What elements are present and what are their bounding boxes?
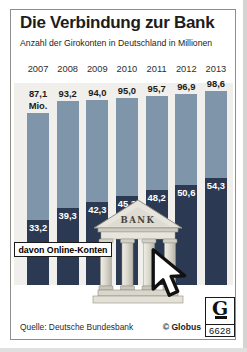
- bar-total-value-label: 98,6: [200, 78, 232, 90]
- bar-total-value-label: 94,0: [81, 87, 113, 99]
- year-label: 2008: [52, 64, 84, 74]
- bar-total-value-label: 87,1Mio.: [22, 88, 54, 112]
- year-label: 2013: [200, 64, 232, 74]
- bar-online-segment: [205, 178, 227, 285]
- infographic-canvas: Die Verbindung zur Bank Anzahl der Girok…: [0, 0, 247, 352]
- online-accounts-annotation: davon Online-Konten: [14, 242, 112, 257]
- globus-graphic-number: 6628: [205, 324, 235, 337]
- scan-edge-bottom: [0, 348, 247, 352]
- scan-edge-right: [243, 0, 247, 352]
- bar-online-value-label: 33,2: [22, 222, 54, 234]
- bar-total-value-label: 95,0: [111, 85, 143, 97]
- bank-cornice: [98, 228, 178, 232]
- unit-label: Mio.: [22, 100, 54, 112]
- copyright-label: © Globus: [163, 322, 201, 332]
- year-label: 2007: [22, 64, 54, 74]
- globus-logo-bar: [215, 316, 227, 319]
- bank-frieze: [101, 232, 175, 239]
- mouse-cursor-icon: [149, 247, 191, 303]
- year-label: 2011: [141, 64, 173, 74]
- year-label: 2009: [81, 64, 113, 74]
- year-label: 2012: [170, 64, 202, 74]
- bar-total-value-label: 93,2: [52, 88, 84, 100]
- globus-logo: G 6628: [205, 297, 235, 337]
- bar-total-value-label: 96,9: [170, 81, 202, 93]
- source-attribution: Quelle: Deutsche Bundesbank: [20, 322, 133, 332]
- bank-sign-text: BANK: [121, 215, 156, 225]
- bar-total-value-label: 95,7: [141, 83, 173, 95]
- bar-online-value-label: 39,3: [52, 210, 84, 222]
- bar-online-value-label: 54,3: [200, 180, 232, 192]
- year-label: 2010: [111, 64, 143, 74]
